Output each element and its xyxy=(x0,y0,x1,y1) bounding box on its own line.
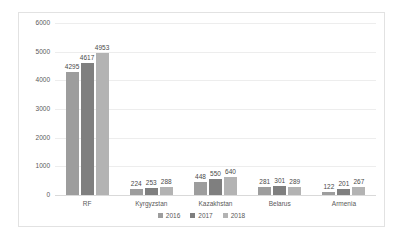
bar-groups: 429546174953RF224253288Kyrgyzstan4485506… xyxy=(55,23,376,195)
bar-slot: 267 xyxy=(352,23,365,195)
bar[interactable] xyxy=(209,179,222,195)
bar-slot: 122 xyxy=(322,23,335,195)
bar[interactable] xyxy=(96,53,109,195)
bar-value-label: 4953 xyxy=(95,45,109,52)
bar-value-label: 640 xyxy=(225,169,236,176)
chart-container: 6000500040003000200010000 429546174953RF… xyxy=(18,12,385,227)
bar-slot: 448 xyxy=(194,23,207,195)
bar-slot: 4617 xyxy=(81,23,94,195)
legend-label: 2016 xyxy=(166,213,180,220)
bar-value-label: 289 xyxy=(289,179,300,186)
bar[interactable] xyxy=(322,192,335,195)
bar-slot: 201 xyxy=(337,23,350,195)
y-axis-tick-label: 5000 xyxy=(36,48,50,55)
bar-value-label: 4617 xyxy=(80,55,94,62)
bar-value-label: 224 xyxy=(131,181,142,188)
legend-item[interactable]: 2016 xyxy=(158,213,180,220)
bar[interactable] xyxy=(288,187,301,195)
legend-label: 2018 xyxy=(231,213,245,220)
chart-legend: 201620172018 xyxy=(19,213,384,220)
bar-slot: 301 xyxy=(273,23,286,195)
legend-swatch-icon xyxy=(190,213,195,218)
plot-area: 6000500040003000200010000 429546174953RF… xyxy=(55,23,376,195)
bar-slot: 4953 xyxy=(96,23,109,195)
bar-value-label: 122 xyxy=(323,184,334,191)
x-axis-category-label: Kyrgyzstan xyxy=(119,201,183,208)
bar-value-label: 288 xyxy=(161,179,172,186)
y-axis-tick-label: 0 xyxy=(46,192,50,199)
legend-item[interactable]: 2018 xyxy=(223,213,245,220)
bar[interactable] xyxy=(81,63,94,195)
x-axis-category-label: Kazakhstan xyxy=(183,201,247,208)
y-axis-tick-label: 4000 xyxy=(36,77,50,84)
bar-slot: 281 xyxy=(258,23,271,195)
legend-item[interactable]: 2017 xyxy=(190,213,212,220)
bar-value-label: 550 xyxy=(210,171,221,178)
bar[interactable] xyxy=(224,177,237,195)
legend-swatch-icon xyxy=(223,213,228,218)
y-axis-tick-label: 3000 xyxy=(36,106,50,113)
bar-group: 448550640Kazakhstan xyxy=(183,23,247,195)
bar-slot: 224 xyxy=(130,23,143,195)
bar[interactable] xyxy=(337,189,350,195)
bar-slot: 4295 xyxy=(66,23,79,195)
bar-value-label: 301 xyxy=(274,178,285,185)
gridline: 0 xyxy=(55,195,376,196)
bar-group: 122201267Armenia xyxy=(312,23,376,195)
bar-value-label: 201 xyxy=(338,181,349,188)
bar-value-label: 281 xyxy=(259,179,270,186)
legend-swatch-icon xyxy=(158,213,163,218)
y-axis-tick-label: 2000 xyxy=(36,134,50,141)
x-axis-category-label: RF xyxy=(55,201,119,208)
bar-value-label: 267 xyxy=(353,179,364,186)
bar-value-label: 448 xyxy=(195,174,206,181)
bar[interactable] xyxy=(273,186,286,195)
bar-group: 224253288Kyrgyzstan xyxy=(119,23,183,195)
x-axis-category-label: Belarus xyxy=(248,201,312,208)
bar-group: 429546174953RF xyxy=(55,23,119,195)
bar[interactable] xyxy=(160,187,173,195)
bar[interactable] xyxy=(66,72,79,195)
bar[interactable] xyxy=(145,188,158,195)
x-axis-category-label: Armenia xyxy=(312,201,376,208)
bar-slot: 288 xyxy=(160,23,173,195)
bar[interactable] xyxy=(352,187,365,195)
y-axis-tick-label: 6000 xyxy=(36,20,50,27)
bar[interactable] xyxy=(258,187,271,195)
bar[interactable] xyxy=(194,182,207,195)
bar-slot: 289 xyxy=(288,23,301,195)
bar-group: 281301289Belarus xyxy=(248,23,312,195)
bar-slot: 253 xyxy=(145,23,158,195)
bar-value-label: 4295 xyxy=(65,64,79,71)
bar-value-label: 253 xyxy=(146,180,157,187)
bar-slot: 550 xyxy=(209,23,222,195)
bar-slot: 640 xyxy=(224,23,237,195)
y-axis-tick-label: 1000 xyxy=(36,163,50,170)
bar[interactable] xyxy=(130,189,143,195)
legend-label: 2017 xyxy=(198,213,212,220)
